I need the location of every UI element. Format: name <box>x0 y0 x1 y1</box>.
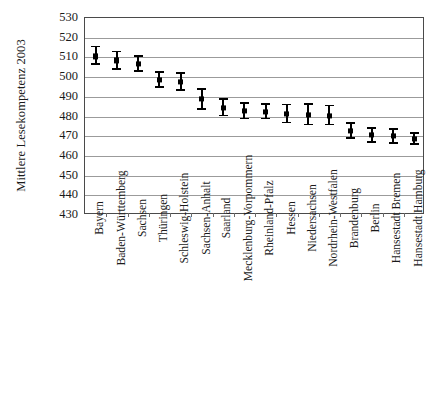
x-category-label-text: Schleswig-Holstein <box>179 173 191 264</box>
y-tick-label-450: 450 <box>40 168 78 181</box>
error-bar-cap-lower <box>176 89 185 91</box>
x-category-label-9: Hessen <box>278 216 294 386</box>
y-tick-label-490: 490 <box>40 90 78 103</box>
y-tick-label-530: 530 <box>40 11 78 24</box>
error-bar-cap-lower <box>346 137 355 139</box>
error-bar-cap-upper <box>176 72 185 74</box>
error-bar-cap-lower <box>91 63 100 65</box>
x-category-label-text: Brandenburg <box>349 188 361 248</box>
x-category-label-text: Baden-Württemberg <box>115 170 127 265</box>
error-bar-cap-lower <box>261 118 270 120</box>
x-category-label-4: Schleswig-Holstein <box>172 216 188 386</box>
error-bar-cap-lower <box>155 86 164 88</box>
error-bar-cap-lower <box>325 124 334 126</box>
data-marker <box>199 96 204 101</box>
error-bar-cap-upper <box>219 98 228 100</box>
data-marker <box>242 108 247 113</box>
data-marker <box>284 111 289 116</box>
error-bar-cap-upper <box>367 127 376 129</box>
x-category-label-0: Bayern <box>87 216 103 386</box>
x-category-label-text: Berlin <box>370 204 382 233</box>
y-tick-label-470: 470 <box>40 129 78 142</box>
x-category-label-text: Rheinland-Pfalz <box>264 180 276 255</box>
error-bar-cap-upper <box>325 105 334 107</box>
x-category-label-text: Mecklenburg-Vorpommern <box>243 155 255 281</box>
x-category-label-text: Hansestadt Hamburg <box>413 169 425 266</box>
x-category-label-text: Sachsen-Anhalt <box>200 181 212 254</box>
data-marker <box>306 112 311 117</box>
data-marker <box>136 62 141 67</box>
y-tick-label-480: 480 <box>40 109 78 122</box>
x-category-label-text: Hansestadt Bremen <box>392 173 404 263</box>
x-category-label-1: Baden-Württemberg <box>108 216 124 386</box>
error-bar-cap-lower <box>197 108 206 110</box>
x-category-label-text: Hessen <box>285 201 297 235</box>
error-bar-cap-lower <box>112 68 121 70</box>
x-category-label-10: Niedersachsen <box>299 216 315 386</box>
error-bar-cap-lower <box>134 70 143 72</box>
x-category-label-15: Hansestadt Hamburg <box>405 216 421 386</box>
y-axis-tick-labels: 530520510500490480470460450440430 <box>40 10 78 222</box>
error-bar-cap-upper <box>346 122 355 124</box>
error-bar-cap-upper <box>282 104 291 106</box>
error-bar-cap-upper <box>112 51 121 53</box>
data-marker <box>369 133 374 138</box>
data-marker <box>221 105 226 110</box>
x-category-label-14: Hansestadt Bremen <box>384 216 400 386</box>
x-category-label-12: Brandenburg <box>342 216 358 386</box>
y-tick-label-430: 430 <box>40 208 78 221</box>
chart-figure: Mittlere Lesekompetenz 2003 530520510500… <box>0 0 446 395</box>
x-category-label-text: Saarland <box>222 198 234 239</box>
x-category-label-6: Saarland <box>214 216 230 386</box>
x-axis-category-labels: BayernBaden-WürttembergSachsenThüringenS… <box>84 216 424 388</box>
data-marker <box>114 58 119 63</box>
data-marker <box>327 113 332 118</box>
y-axis-title: Mittlere Lesekompetenz 2003 <box>8 12 34 218</box>
error-bar-cap-lower <box>410 143 419 145</box>
x-category-label-13: Berlin <box>363 216 379 386</box>
y-tick-label-520: 520 <box>40 30 78 43</box>
error-bar-cap-lower <box>219 115 228 117</box>
error-bar-cap-upper <box>304 103 313 105</box>
error-bar-cap-upper <box>261 103 270 105</box>
error-bar-cap-upper <box>410 132 419 134</box>
x-category-label-5: Sachsen-Anhalt <box>193 216 209 386</box>
x-category-label-text: Nordrhein-Westfalen <box>328 169 340 267</box>
x-category-label-text: Sachsen <box>137 199 149 237</box>
error-bar-cap-upper <box>240 102 249 104</box>
x-category-label-8: Rheinland-Pfalz <box>257 216 273 386</box>
data-marker <box>178 79 183 84</box>
error-bar-cap-lower <box>367 141 376 143</box>
x-category-label-text: Niedersachsen <box>307 184 319 252</box>
data-marker <box>157 77 162 82</box>
error-bar-cap-upper <box>389 128 398 130</box>
error-bar-cap-lower <box>282 122 291 124</box>
data-marker <box>348 129 353 134</box>
x-category-label-text: Thüringen <box>158 194 170 242</box>
x-category-label-3: Thüringen <box>150 216 166 386</box>
y-tick-label-460: 460 <box>40 149 78 162</box>
y-tick-label-440: 440 <box>40 188 78 201</box>
data-marker <box>412 137 417 142</box>
error-bar-cap-upper <box>197 88 206 90</box>
y-axis-title-text: Mittlere Lesekompetenz 2003 <box>14 39 29 192</box>
error-bar-cap-upper <box>134 55 143 57</box>
y-tick-label-500: 500 <box>40 70 78 83</box>
x-category-label-2: Sachsen <box>129 216 145 386</box>
error-bar-cap-upper <box>91 46 100 48</box>
error-bar-cap-upper <box>155 71 164 73</box>
x-category-label-7: Mecklenburg-Vorpommern <box>235 216 251 386</box>
data-marker <box>93 54 98 59</box>
error-bar-cap-lower <box>389 142 398 144</box>
x-category-label-text: Bayern <box>94 201 106 234</box>
x-category-label-11: Nordrhein-Westfalen <box>320 216 336 386</box>
error-bar-cap-lower <box>240 118 249 120</box>
error-bar-cap-lower <box>304 124 313 126</box>
data-marker <box>391 134 396 139</box>
y-tick-label-510: 510 <box>40 50 78 63</box>
data-marker <box>263 109 268 114</box>
